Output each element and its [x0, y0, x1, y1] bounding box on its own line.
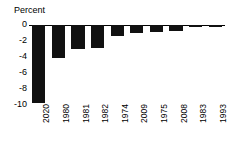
y-axis-tick-label: 0: [0, 20, 27, 29]
y-axis-tick-label: -8: [0, 84, 27, 93]
bar: [189, 25, 202, 27]
x-axis-tick-label: 2008: [180, 104, 189, 142]
plot-area: [29, 18, 225, 106]
x-axis-tick-label: 2009: [140, 104, 149, 142]
x-axis-tick-label: 1982: [101, 104, 110, 142]
bar: [150, 25, 163, 32]
x-axis-tick-label: 1974: [121, 104, 130, 142]
bar-chart: Percent 0-2-4-6-8-10 2020198019811982197…: [0, 0, 227, 144]
x-axis-tick-label: 2020: [42, 104, 51, 142]
bar: [111, 25, 124, 36]
x-axis-tick-label: 1993: [219, 104, 227, 142]
y-axis-tick-label: -6: [0, 68, 27, 77]
bar: [32, 25, 45, 103]
y-axis-tick-label: -10: [0, 100, 27, 109]
y-axis-tick-label: -4: [0, 52, 27, 61]
bar: [91, 25, 104, 48]
x-axis-tick-labels: 2020198019811982197420091975200819831993: [29, 106, 225, 144]
x-axis-tick-label: 1980: [62, 104, 71, 142]
x-axis-tick-label: 1981: [82, 104, 91, 142]
y-axis-tick-label: -2: [0, 36, 27, 45]
y-axis-tick-labels: 0-2-4-6-8-10: [0, 0, 27, 144]
bar: [209, 25, 222, 27]
x-axis-tick-label: 1975: [160, 104, 169, 142]
bar: [52, 25, 65, 58]
x-axis-tick-label: 1983: [199, 104, 208, 142]
bar: [71, 25, 84, 50]
bar: [169, 25, 182, 31]
bar: [130, 25, 143, 33]
